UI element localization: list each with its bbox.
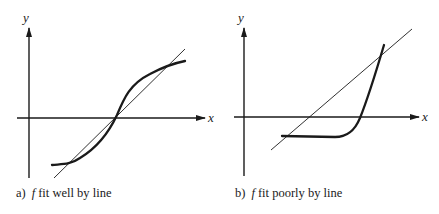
figure-canvas: y x y x: [0, 0, 439, 214]
panel-a-caption-text: fit well by line: [38, 186, 111, 200]
panel-b-caption-var: f: [251, 186, 254, 200]
panel-a-curve-f: [52, 61, 185, 165]
panel-b-caption: b)ffit poorly by line: [235, 186, 342, 201]
panel-a-x-label: x: [207, 110, 214, 125]
panel-b-y-label: y: [236, 10, 244, 25]
panel-b-fit-line: [271, 29, 412, 150]
panel-a-caption-var: f: [32, 186, 35, 200]
panel-a-fit-line: [54, 49, 185, 178]
panel-a-caption-prefix: a): [16, 186, 26, 200]
panel-b-x-label: x: [421, 109, 428, 124]
panel-b-caption-text: fit poorly by line: [258, 186, 342, 200]
panel-a-y-label: y: [21, 10, 29, 25]
panel-b-plot: y x: [234, 10, 428, 176]
panel-b-caption-prefix: b): [235, 186, 245, 200]
panel-b-curve-f: [282, 45, 384, 137]
panel-a-plot: y x: [17, 10, 214, 178]
panel-a-caption: a)ffit well by line: [16, 186, 111, 201]
